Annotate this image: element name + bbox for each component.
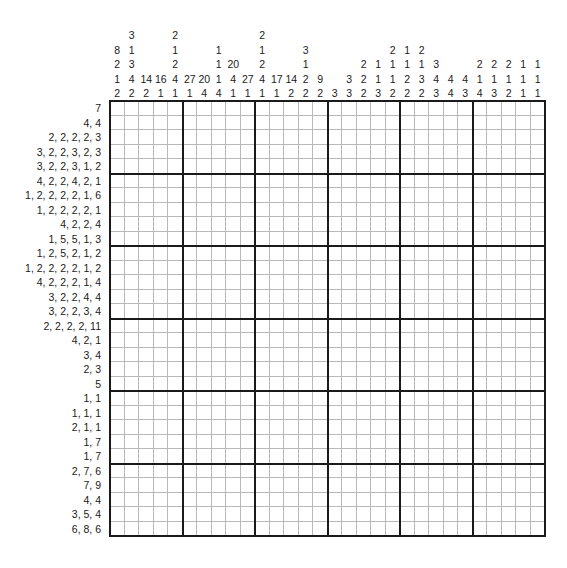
grid-cell[interactable] bbox=[502, 362, 517, 377]
grid-cell[interactable] bbox=[371, 130, 386, 145]
grid-cell[interactable] bbox=[212, 145, 227, 160]
grid-cell[interactable] bbox=[473, 377, 488, 392]
grid-cell[interactable] bbox=[284, 435, 299, 450]
grid-cell[interactable] bbox=[299, 449, 314, 464]
grid-cell[interactable] bbox=[415, 348, 430, 363]
grid-cell[interactable] bbox=[212, 435, 227, 450]
grid-cell[interactable] bbox=[458, 261, 473, 276]
grid-cell[interactable] bbox=[328, 188, 343, 203]
grid-cell[interactable] bbox=[458, 522, 473, 537]
grid-cell[interactable] bbox=[125, 406, 140, 421]
grid-cell[interactable] bbox=[357, 420, 372, 435]
grid-cell[interactable] bbox=[154, 290, 169, 305]
grid-cell[interactable] bbox=[458, 493, 473, 508]
grid-cell[interactable] bbox=[458, 348, 473, 363]
grid-cell[interactable] bbox=[197, 420, 212, 435]
grid-cell[interactable] bbox=[212, 188, 227, 203]
grid-cell[interactable] bbox=[400, 159, 415, 174]
grid-cell[interactable] bbox=[429, 435, 444, 450]
grid-cell[interactable] bbox=[487, 188, 502, 203]
grid-cell[interactable] bbox=[183, 116, 198, 131]
grid-cell[interactable] bbox=[270, 420, 285, 435]
grid-cell[interactable] bbox=[255, 420, 270, 435]
grid-cell[interactable] bbox=[125, 290, 140, 305]
grid-cell[interactable] bbox=[299, 391, 314, 406]
grid-cell[interactable] bbox=[125, 478, 140, 493]
grid-cell[interactable] bbox=[299, 116, 314, 131]
grid-cell[interactable] bbox=[226, 449, 241, 464]
grid-cell[interactable] bbox=[139, 449, 154, 464]
grid-cell[interactable] bbox=[502, 420, 517, 435]
grid-cell[interactable] bbox=[299, 333, 314, 348]
grid-cell[interactable] bbox=[110, 159, 125, 174]
grid-cell[interactable] bbox=[502, 261, 517, 276]
grid-cell[interactable] bbox=[487, 246, 502, 261]
grid-cell[interactable] bbox=[255, 261, 270, 276]
grid-cell[interactable] bbox=[284, 464, 299, 479]
grid-cell[interactable] bbox=[255, 101, 270, 116]
grid-cell[interactable] bbox=[270, 145, 285, 160]
grid-cell[interactable] bbox=[357, 449, 372, 464]
grid-cell[interactable] bbox=[313, 217, 328, 232]
grid-cell[interactable] bbox=[313, 319, 328, 334]
grid-cell[interactable] bbox=[371, 478, 386, 493]
grid-cell[interactable] bbox=[299, 261, 314, 276]
grid-cell[interactable] bbox=[168, 319, 183, 334]
grid-cell[interactable] bbox=[516, 377, 531, 392]
grid-cell[interactable] bbox=[400, 116, 415, 131]
grid-cell[interactable] bbox=[313, 116, 328, 131]
grid-cell[interactable] bbox=[429, 348, 444, 363]
grid-cell[interactable] bbox=[241, 275, 256, 290]
grid-cell[interactable] bbox=[531, 261, 546, 276]
grid-cell[interactable] bbox=[241, 493, 256, 508]
grid-cell[interactable] bbox=[241, 261, 256, 276]
grid-cell[interactable] bbox=[241, 232, 256, 247]
grid-cell[interactable] bbox=[212, 333, 227, 348]
grid-cell[interactable] bbox=[313, 522, 328, 537]
grid-cell[interactable] bbox=[473, 435, 488, 450]
grid-cell[interactable] bbox=[139, 261, 154, 276]
grid-cell[interactable] bbox=[125, 275, 140, 290]
grid-cell[interactable] bbox=[110, 449, 125, 464]
grid-cell[interactable] bbox=[531, 116, 546, 131]
grid-cell[interactable] bbox=[110, 188, 125, 203]
grid-cell[interactable] bbox=[154, 232, 169, 247]
grid-cell[interactable] bbox=[473, 406, 488, 421]
grid-cell[interactable] bbox=[270, 391, 285, 406]
grid-cell[interactable] bbox=[415, 246, 430, 261]
grid-cell[interactable] bbox=[284, 130, 299, 145]
grid-cell[interactable] bbox=[139, 435, 154, 450]
grid-cell[interactable] bbox=[357, 261, 372, 276]
grid-cell[interactable] bbox=[110, 116, 125, 131]
grid-cell[interactable] bbox=[531, 145, 546, 160]
grid-cell[interactable] bbox=[241, 333, 256, 348]
grid-cell[interactable] bbox=[444, 333, 459, 348]
grid-cell[interactable] bbox=[183, 435, 198, 450]
grid-cell[interactable] bbox=[255, 391, 270, 406]
grid-cell[interactable] bbox=[168, 333, 183, 348]
grid-cell[interactable] bbox=[371, 159, 386, 174]
grid-cell[interactable] bbox=[357, 290, 372, 305]
grid-cell[interactable] bbox=[516, 232, 531, 247]
grid-cell[interactable] bbox=[154, 362, 169, 377]
grid-cell[interactable] bbox=[357, 362, 372, 377]
grid-cell[interactable] bbox=[473, 290, 488, 305]
grid-cell[interactable] bbox=[371, 507, 386, 522]
grid-cell[interactable] bbox=[241, 290, 256, 305]
grid-cell[interactable] bbox=[270, 464, 285, 479]
grid-cell[interactable] bbox=[487, 348, 502, 363]
grid-cell[interactable] bbox=[458, 304, 473, 319]
grid-cell[interactable] bbox=[125, 159, 140, 174]
grid-cell[interactable] bbox=[531, 174, 546, 189]
grid-cell[interactable] bbox=[299, 420, 314, 435]
grid-cell[interactable] bbox=[139, 188, 154, 203]
grid-cell[interactable] bbox=[487, 377, 502, 392]
grid-cell[interactable] bbox=[357, 464, 372, 479]
grid-cell[interactable] bbox=[386, 261, 401, 276]
grid-cell[interactable] bbox=[328, 174, 343, 189]
grid-cell[interactable] bbox=[270, 333, 285, 348]
grid-cell[interactable] bbox=[415, 420, 430, 435]
grid-cell[interactable] bbox=[154, 159, 169, 174]
grid-cell[interactable] bbox=[415, 145, 430, 160]
grid-cell[interactable] bbox=[516, 435, 531, 450]
